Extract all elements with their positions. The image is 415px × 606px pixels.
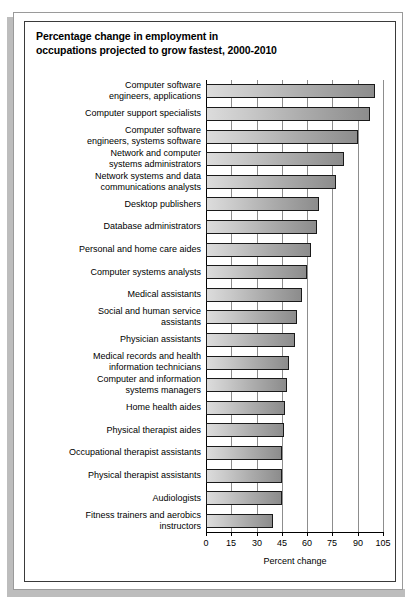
- bar: [206, 243, 311, 257]
- category-label-line: Audiologists: [21, 493, 201, 504]
- bar: [206, 333, 295, 347]
- category-label-line: Computer software: [21, 80, 201, 91]
- category-label: Fitness trainers and aerobicsinstructors: [21, 510, 201, 532]
- category-label-line: Physical therapist assistants: [21, 470, 201, 481]
- category-label-line: Network and computer: [21, 148, 201, 159]
- bar: [206, 469, 282, 483]
- chart-page: Percentage change in employment in occup…: [0, 0, 415, 606]
- bar: [206, 152, 344, 166]
- category-label: Network and computersystems administrato…: [21, 148, 201, 170]
- category-label-line: Social and human service: [21, 306, 201, 317]
- bar: [206, 446, 282, 460]
- category-label: Computer softwareengineers, systems soft…: [21, 125, 201, 147]
- category-label-line: Personal and home care aides: [21, 244, 201, 255]
- bar: [206, 310, 297, 324]
- category-label-line: engineers, systems software: [21, 136, 201, 147]
- category-label: Medical records and healthinformation te…: [21, 351, 201, 373]
- bar: [206, 356, 289, 370]
- category-label: Network systems and datacommunications a…: [21, 171, 201, 193]
- category-label: Occupational therapist assistants: [21, 447, 201, 458]
- category-label-line: Home health aides: [21, 402, 201, 413]
- category-label-line: instructors: [21, 521, 201, 532]
- category-label: Physician assistants: [21, 334, 201, 345]
- category-label: Computer systems analysts: [21, 267, 201, 278]
- bar: [206, 265, 307, 279]
- category-label-line: Medical assistants: [21, 289, 201, 300]
- category-label-line: Fitness trainers and aerobics: [21, 510, 201, 521]
- bar: [206, 220, 317, 234]
- bar: [206, 401, 285, 415]
- category-label-line: Physical therapist aides: [21, 425, 201, 436]
- category-label: Computer support specialists: [21, 108, 201, 119]
- category-label: Personal and home care aides: [21, 244, 201, 255]
- category-label: Computer and informationsystems managers: [21, 374, 201, 396]
- category-label-line: communications analysts: [21, 182, 201, 193]
- category-label-line: Computer and information: [21, 374, 201, 385]
- bar: [206, 288, 302, 302]
- category-label: Social and human serviceassistants: [21, 306, 201, 328]
- category-label-line: engineers, applications: [21, 91, 201, 102]
- category-label-line: systems administrators: [21, 159, 201, 170]
- category-label-line: systems managers: [21, 385, 201, 396]
- category-label: Desktop publishers: [21, 199, 201, 210]
- category-label: Physical therapist assistants: [21, 470, 201, 481]
- category-label: Physical therapist aides: [21, 425, 201, 436]
- category-label: Medical assistants: [21, 289, 201, 300]
- bar: [206, 514, 273, 528]
- category-label-line: assistants: [21, 317, 201, 328]
- bar: [206, 378, 287, 392]
- x-axis-title: Percent change: [206, 556, 384, 566]
- category-label-line: Network systems and data: [21, 171, 201, 182]
- bar: [206, 107, 370, 121]
- category-label-line: Occupational therapist assistants: [21, 447, 201, 458]
- bar-rows: Computer softwareengineers, applications…: [0, 0, 415, 606]
- bar: [206, 423, 284, 437]
- category-label-line: Computer software: [21, 125, 201, 136]
- bar: [206, 175, 336, 189]
- bar: [206, 491, 282, 505]
- category-label-line: Desktop publishers: [21, 199, 201, 210]
- bar: [206, 197, 319, 211]
- category-label: Home health aides: [21, 402, 201, 413]
- category-label-line: Database administrators: [21, 221, 201, 232]
- bar: [206, 84, 375, 98]
- bar: [206, 130, 358, 144]
- category-label-line: Computer support specialists: [21, 108, 201, 119]
- category-label-line: Medical records and health: [21, 351, 201, 362]
- category-label: Computer softwareengineers, applications: [21, 80, 201, 102]
- category-label-line: Computer systems analysts: [21, 267, 201, 278]
- category-label: Database administrators: [21, 221, 201, 232]
- category-label: Audiologists: [21, 493, 201, 504]
- category-label-line: information technicians: [21, 362, 201, 373]
- category-label-line: Physician assistants: [21, 334, 201, 345]
